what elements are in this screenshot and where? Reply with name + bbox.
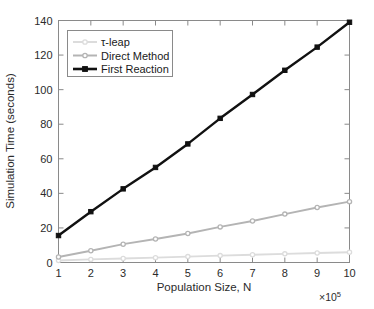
legend-swatch-marker: [83, 53, 87, 57]
data-point-marker: [218, 253, 222, 257]
data-point-marker: [186, 255, 190, 259]
data-point-marker: [283, 252, 287, 256]
data-point-marker: [153, 165, 157, 169]
data-point-marker: [186, 231, 190, 235]
data-point-marker: [56, 233, 60, 237]
data-point-marker: [153, 256, 157, 260]
data-point-marker: [250, 253, 254, 257]
data-point-marker: [89, 249, 93, 253]
y-tick-label: 60: [40, 153, 52, 165]
x-tick-label: 6: [217, 267, 223, 279]
x-tick-label: 9: [314, 267, 320, 279]
data-point-marker: [347, 20, 351, 24]
data-point-marker: [121, 256, 125, 260]
y-tick-label: 0: [46, 257, 52, 269]
data-point-marker: [121, 242, 125, 246]
x-axis-title: Population Size, N: [157, 281, 252, 293]
y-tick-label: 120: [34, 49, 52, 61]
figure-container: 020406080100120140 12345678910 Simulatio…: [0, 0, 374, 309]
data-point-marker: [121, 187, 125, 191]
data-point-marker: [250, 92, 254, 96]
x-tick-label: 7: [249, 267, 255, 279]
legend-label: Direct Method: [101, 50, 169, 62]
x-tick-label: 8: [282, 267, 288, 279]
x-tick-label: 3: [120, 267, 126, 279]
series-line: [59, 252, 350, 260]
series-1: [56, 250, 351, 262]
data-point-marker: [153, 237, 157, 241]
legend-swatch-marker: [83, 67, 88, 72]
data-point-marker: [186, 142, 190, 146]
data-point-marker: [283, 68, 287, 72]
x-tick-label: 5: [185, 267, 191, 279]
series-2: [56, 200, 351, 260]
data-point-marker: [89, 209, 93, 213]
legend-swatch-marker: [83, 40, 87, 44]
data-point-marker: [347, 200, 351, 204]
y-tick-label: 20: [40, 222, 52, 234]
x-tick-label: 4: [152, 267, 158, 279]
legend: τ-leapDirect MethodFirst Reaction: [68, 31, 173, 77]
legend-label: τ-leap: [101, 36, 130, 48]
x-axis-tick-labels: 12345678910: [55, 267, 355, 279]
data-point-marker: [218, 225, 222, 229]
data-point-marker: [218, 116, 222, 120]
data-point-marker: [315, 205, 319, 209]
y-tick-label: 140: [34, 15, 52, 27]
series-line: [59, 202, 350, 257]
legend-label: First Reaction: [101, 63, 169, 75]
line-chart: 020406080100120140 12345678910 Simulatio…: [0, 0, 374, 309]
x-tick-label: 1: [55, 267, 61, 279]
data-point-marker: [283, 212, 287, 216]
data-point-marker: [315, 251, 319, 255]
data-point-marker: [56, 255, 60, 259]
y-tick-label: 40: [40, 187, 52, 199]
data-point-marker: [315, 45, 319, 49]
data-point-marker: [347, 250, 351, 254]
x-tick-label: 2: [88, 267, 94, 279]
y-tick-label: 80: [40, 118, 52, 130]
y-tick-label: 100: [34, 84, 52, 96]
x-tick-label: 10: [343, 267, 355, 279]
x-axis-exponent: ×105: [319, 290, 341, 303]
x-axis-exponent-base: ×10: [319, 291, 337, 303]
y-axis-title: Simulation Time (seconds): [4, 73, 16, 209]
data-point-marker: [250, 219, 254, 223]
y-axis-tick-labels: 020406080100120140: [34, 15, 52, 269]
data-point-marker: [89, 257, 93, 261]
x-axis-exponent-power: 5: [337, 290, 341, 299]
